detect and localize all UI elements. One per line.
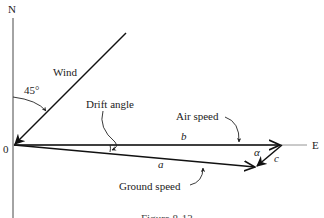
wind-label: Wind: [53, 66, 77, 78]
alpha-label: α: [254, 146, 260, 158]
vector-c-label: c: [274, 152, 279, 164]
air-speed-label: Air speed: [176, 110, 219, 122]
drift-angle-label: Drift angle: [86, 98, 134, 110]
wind-triangle-diagram: N E 0 Wind 45° b Air speed c α a Drift a…: [0, 0, 324, 218]
vector-b-label: b: [181, 130, 187, 142]
ground-speed-pointer: [190, 168, 203, 185]
vector-a-label: a: [158, 158, 164, 170]
angle-arc: [13, 97, 46, 111]
angle-label: 45°: [24, 84, 39, 96]
figure-caption: Figure 8-13: [141, 212, 193, 218]
ground-speed-label: Ground speed: [119, 180, 181, 192]
origin-label: 0: [3, 143, 9, 155]
east-label: E: [312, 139, 319, 151]
ground-speed-vector: [14, 145, 255, 167]
north-label: N: [8, 3, 16, 15]
air-speed-pointer: [225, 117, 239, 142]
drift-angle-pointer: [102, 111, 117, 150]
drift-angle-arc: [110, 145, 111, 152]
